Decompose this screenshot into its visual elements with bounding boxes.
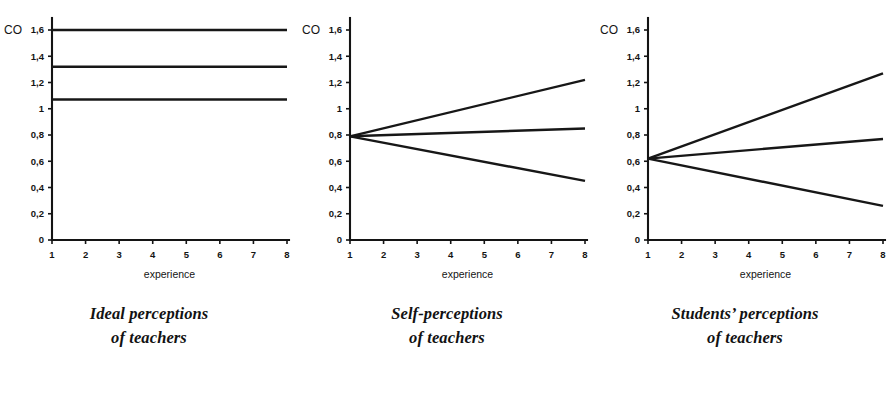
x-axis-title: experience [442, 268, 494, 280]
figure-panel-row: 00,20,40,60,811,21,41,612345678COexperie… [0, 0, 895, 394]
y-tick-label: 0 [337, 234, 342, 245]
x-tick-label: 3 [116, 249, 121, 260]
line-chart-1: 00,20,40,60,811,21,41,612345678COexperie… [298, 0, 596, 300]
panel-caption-0: Ideal perceptions of teachers [0, 302, 298, 350]
y-tick-label: 0,2 [627, 208, 640, 219]
x-tick-label: 5 [482, 249, 488, 260]
y-tick-label: 0,8 [329, 129, 342, 140]
y-tick-label: 1,4 [627, 51, 641, 62]
y-tick-label: 1,2 [31, 77, 44, 88]
x-tick-label: 6 [813, 249, 818, 260]
x-tick-label: 6 [217, 249, 222, 260]
data-line-line-3 [648, 159, 883, 206]
caption-line-2: of teachers [0, 326, 298, 350]
x-tick-label: 4 [746, 249, 752, 260]
x-tick-label: 4 [150, 249, 156, 260]
y-tick-label: 0,6 [627, 156, 640, 167]
chart-panel-students-perceptions: 00,20,40,60,811,21,41,612345678COexperie… [596, 0, 894, 394]
panel-caption-1: Self-perceptions of teachers [298, 302, 596, 350]
y-tick-label: 1 [337, 103, 343, 114]
x-tick-label: 7 [847, 249, 852, 260]
y-axis-name: CO [600, 23, 618, 37]
x-tick-label: 8 [582, 249, 587, 260]
y-tick-label: 1,2 [329, 77, 342, 88]
caption-line-1: Self-perceptions [298, 302, 596, 326]
y-tick-label: 0,4 [329, 182, 343, 193]
y-tick-label: 1,4 [329, 51, 343, 62]
data-line-line-1 [648, 73, 883, 158]
y-tick-label: 1 [39, 103, 45, 114]
plot-area-1: 00,20,40,60,811,21,41,612345678COexperie… [298, 0, 596, 300]
y-axis-name: CO [302, 23, 320, 37]
y-tick-label: 0,8 [31, 129, 44, 140]
x-axis-title: experience [740, 268, 792, 280]
x-tick-label: 2 [679, 249, 684, 260]
y-tick-label: 0,2 [31, 208, 44, 219]
y-tick-label: 1,4 [31, 51, 45, 62]
data-line-line-3 [350, 136, 585, 181]
x-tick-label: 6 [515, 249, 520, 260]
y-axis-name: CO [4, 23, 22, 37]
data-line-line-1 [350, 80, 585, 136]
x-tick-label: 2 [83, 249, 88, 260]
data-line-line-2 [350, 128, 585, 136]
plot-area-0: 00,20,40,60,811,21,41,612345678COexperie… [0, 0, 298, 300]
x-tick-label: 8 [880, 249, 885, 260]
x-tick-label: 5 [184, 249, 190, 260]
caption-line-2: of teachers [298, 326, 596, 350]
chart-panel-self-perceptions: 00,20,40,60,811,21,41,612345678COexperie… [298, 0, 596, 394]
y-tick-label: 1,6 [329, 24, 342, 35]
caption-line-2: of teachers [596, 326, 894, 350]
plot-area-2: 00,20,40,60,811,21,41,612345678COexperie… [596, 0, 894, 300]
x-tick-label: 8 [284, 249, 289, 260]
y-tick-label: 0 [635, 234, 640, 245]
x-tick-label: 4 [448, 249, 454, 260]
x-tick-label: 2 [381, 249, 386, 260]
x-tick-label: 5 [780, 249, 786, 260]
x-tick-label: 1 [49, 249, 55, 260]
x-axis-title: experience [144, 268, 196, 280]
x-tick-label: 3 [414, 249, 419, 260]
y-tick-label: 1,6 [31, 24, 44, 35]
x-tick-label: 1 [645, 249, 651, 260]
y-tick-label: 0,8 [627, 129, 640, 140]
chart-panel-ideal-perceptions: 00,20,40,60,811,21,41,612345678COexperie… [0, 0, 298, 394]
line-chart-0: 00,20,40,60,811,21,41,612345678COexperie… [0, 0, 298, 300]
y-tick-label: 1 [635, 103, 641, 114]
caption-line-1: Ideal perceptions [0, 302, 298, 326]
y-tick-label: 0,2 [329, 208, 342, 219]
x-tick-label: 7 [549, 249, 554, 260]
caption-line-1: Students’ perceptions [596, 302, 894, 326]
data-line-line-2 [648, 139, 883, 159]
y-tick-label: 0,4 [627, 182, 641, 193]
y-tick-label: 0,4 [31, 182, 45, 193]
y-tick-label: 1,2 [627, 77, 640, 88]
y-tick-label: 0 [39, 234, 44, 245]
panel-caption-2: Students’ perceptions of teachers [596, 302, 894, 350]
line-chart-2: 00,20,40,60,811,21,41,612345678COexperie… [596, 0, 894, 300]
y-tick-label: 1,6 [627, 24, 640, 35]
x-tick-label: 1 [347, 249, 353, 260]
x-tick-label: 3 [712, 249, 717, 260]
x-tick-label: 7 [251, 249, 256, 260]
y-tick-label: 0,6 [31, 156, 44, 167]
y-tick-label: 0,6 [329, 156, 342, 167]
